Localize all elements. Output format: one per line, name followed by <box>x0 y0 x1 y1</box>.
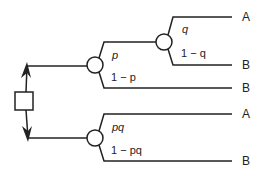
prob-label-1-p: 1 − p <box>111 71 136 83</box>
outcome-label-b-bottom: B <box>242 154 250 168</box>
outcome-label-a-lower: A <box>242 107 250 121</box>
prob-label-1-q: 1 − q <box>181 47 206 59</box>
branch-p-line <box>99 42 156 58</box>
prob-label-pq: pq <box>111 121 125 133</box>
outcome-label-a-top: A <box>242 10 250 24</box>
chance-node-1 <box>87 57 103 73</box>
outcome-label-b-middle: B <box>242 81 250 95</box>
chance-node-2 <box>156 34 172 50</box>
prob-label-1-pq: 1 − pq <box>111 144 142 156</box>
branch-q-line <box>168 17 232 35</box>
outcome-label-b-upper: B <box>242 58 250 72</box>
decision-node-square <box>15 92 33 110</box>
chance-node-3 <box>87 130 103 146</box>
prob-label-q: q <box>182 23 189 35</box>
prob-label-p: p <box>111 49 118 61</box>
decision-tree-diagram: p 1 − p q 1 − q pq 1 − pq A B B A B <box>0 0 263 173</box>
